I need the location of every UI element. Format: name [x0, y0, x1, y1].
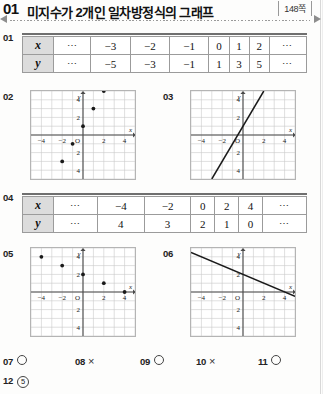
table-cell: 2 [215, 197, 239, 215]
table-row: y⋯43210⋯ [23, 215, 307, 233]
svg-text:2: 2 [77, 149, 81, 157]
svg-text:2: 2 [77, 114, 81, 122]
table-cell: ⋯ [262, 197, 306, 215]
table-row-label: y [23, 215, 54, 233]
answer-number: 08 [75, 356, 85, 367]
question-number-01: 01 [3, 32, 13, 43]
table-cell: ⋯ [262, 215, 306, 233]
answer-circle-icon [154, 355, 164, 365]
answer-item-10: 10× [196, 355, 215, 367]
svg-text:x: x [128, 126, 133, 134]
question-number-05: 05 [3, 248, 13, 259]
answer-item-11: 11 [258, 355, 281, 367]
svg-text:4: 4 [237, 324, 241, 332]
svg-text:−4: −4 [38, 294, 46, 302]
table-cell: 4 [98, 215, 145, 233]
table-cell: −2 [130, 37, 169, 55]
svg-text:4: 4 [123, 137, 127, 145]
worksheet-page: 01 미지수가 2개인 일차방정식의 그래프 148쪽 01 x⋯−3−2−10… [0, 0, 323, 394]
section-header: 01 미지수가 2개인 일차방정식의 그래프 148쪽 [0, 0, 323, 22]
table-q04: x⋯−4−2024⋯ y⋯43210⋯ [22, 196, 307, 233]
svg-text:2: 2 [237, 149, 241, 157]
svg-text:4: 4 [283, 137, 287, 145]
svg-text:O: O [75, 294, 80, 302]
answer-item-07: 07 [3, 355, 27, 367]
table-row-label: x [23, 37, 54, 55]
graph-q03: −4−2244224Oxy [190, 90, 296, 180]
table-cell: −3 [91, 37, 130, 55]
svg-text:−2: −2 [58, 294, 66, 302]
graph-q02: −4−2244224Oxy [30, 90, 136, 180]
axes [191, 91, 295, 179]
table-cell: ⋯ [54, 55, 91, 73]
svg-text:−4: −4 [198, 294, 206, 302]
header-divider [10, 20, 310, 21]
section-number: 01 [3, 0, 19, 17]
svg-text:2: 2 [262, 137, 266, 145]
svg-text:−2: −2 [218, 294, 226, 302]
table-cell: 2 [191, 215, 215, 233]
table-cell: −5 [91, 55, 130, 73]
table-cell: 3 [229, 55, 249, 73]
svg-text:2: 2 [102, 294, 106, 302]
table-row: x⋯−3−2−1012⋯ [23, 37, 307, 55]
table-row-label: x [23, 197, 54, 215]
answer-number: 10 [196, 356, 206, 367]
table-row-label: y [23, 55, 54, 73]
table1-top-rule [22, 33, 307, 35]
svg-text:O: O [235, 294, 240, 302]
svg-text:O: O [75, 137, 80, 145]
table-row: x⋯−4−2024⋯ [23, 197, 307, 215]
svg-text:4: 4 [283, 294, 287, 302]
svg-text:x: x [288, 283, 293, 291]
svg-text:2: 2 [77, 271, 81, 279]
axes [191, 248, 295, 336]
table-cell: 4 [239, 197, 263, 215]
page-reference-badge: 148쪽 [278, 1, 312, 16]
svg-text:−2: −2 [58, 137, 66, 145]
header-arrow-right-icon [314, 15, 321, 23]
question-number-06: 06 [163, 248, 173, 259]
svg-text:x: x [128, 283, 133, 291]
table-cell: −3 [130, 55, 169, 73]
svg-text:4: 4 [77, 167, 81, 175]
question-number-03: 03 [163, 91, 173, 102]
table-cell: 3 [144, 215, 191, 233]
svg-text:2: 2 [77, 306, 81, 314]
svg-text:2: 2 [237, 306, 241, 314]
answer-circle-icon [271, 355, 281, 365]
svg-text:4: 4 [123, 294, 127, 302]
answer-item-12: 125 [3, 375, 29, 388]
answer-choice-icon: 5 [17, 376, 29, 388]
graph-q05: −4−2244224Oxy [30, 247, 136, 337]
svg-text:−2: −2 [218, 137, 226, 145]
svg-text:x: x [288, 126, 293, 134]
answer-cross-icon: × [88, 355, 94, 367]
table-cell: −1 [169, 55, 208, 73]
table-cell: 0 [239, 215, 263, 233]
graph-q06: −4−2244224Oxy [190, 247, 296, 337]
question-number-02: 02 [3, 91, 13, 102]
table-cell: −1 [169, 37, 208, 55]
answer-number: 07 [3, 356, 13, 367]
svg-text:−4: −4 [38, 137, 46, 145]
svg-text:4: 4 [237, 167, 241, 175]
svg-text:2: 2 [237, 114, 241, 122]
answer-number: 12 [3, 375, 13, 386]
answer-circle-icon [17, 355, 27, 365]
table-cell: 0 [209, 37, 229, 55]
table-cell: ⋯ [54, 37, 91, 55]
table-cell: −4 [98, 197, 145, 215]
svg-text:2: 2 [102, 137, 106, 145]
axes [31, 91, 135, 179]
answer-item-09: 09 [140, 355, 164, 367]
answer-number: 11 [258, 356, 267, 367]
section-title: 미지수가 2개인 일차방정식의 그래프 [27, 2, 214, 21]
svg-text:2: 2 [262, 294, 266, 302]
page-border [320, 0, 321, 394]
table-cell: 2 [249, 37, 269, 55]
table-cell: 0 [191, 197, 215, 215]
table-cell: 1 [229, 37, 249, 55]
answer-number: 09 [140, 356, 150, 367]
table2-top-rule [22, 193, 307, 195]
